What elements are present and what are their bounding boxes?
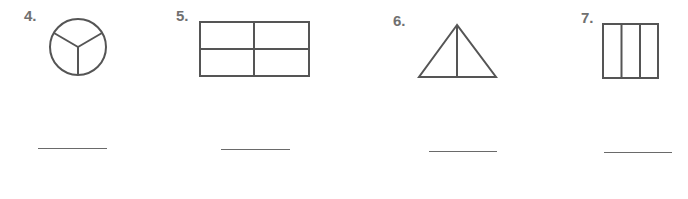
answer-line-7[interactable] <box>604 152 672 153</box>
shapes-canvas <box>0 0 688 199</box>
answer-line-4[interactable] <box>38 148 107 149</box>
rectangle-fourths-shape <box>200 22 309 76</box>
answer-line-5[interactable] <box>221 149 290 150</box>
triangle-halves-shape <box>419 25 496 77</box>
square-thirds-shape <box>603 24 658 78</box>
answer-line-6[interactable] <box>429 151 497 152</box>
circle-thirds-shape <box>50 19 106 75</box>
